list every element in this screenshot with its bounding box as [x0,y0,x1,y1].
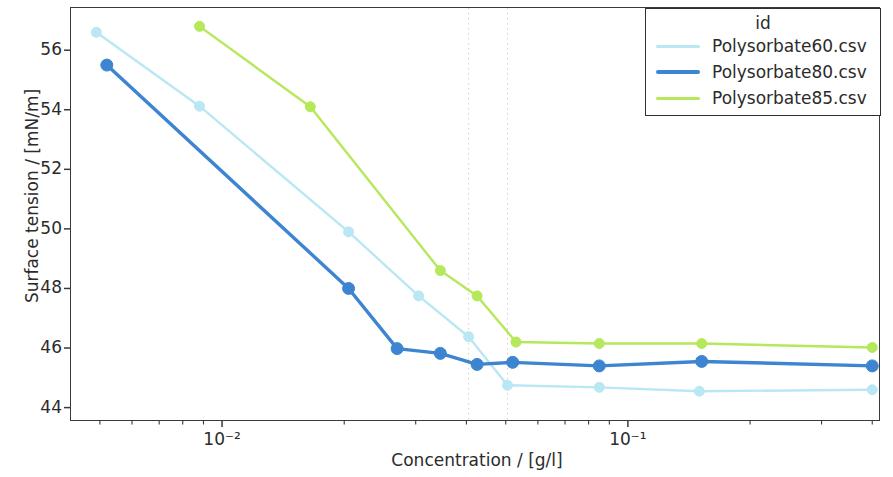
y-tick-label: 44 [16,399,62,416]
y-tick-label: 56 [16,41,62,58]
x-tick-label: 10⁻² [177,429,267,449]
y-tick-label: 48 [16,279,62,296]
y-axis-label: Surface tension / [mN/m] [22,46,42,346]
legend-entry-label: Polysorbate80.csv [712,62,867,82]
y-tick-label: 50 [16,220,62,237]
legend-entry-label: Polysorbate60.csv [712,36,867,56]
legend-title: id [646,13,880,33]
legend-entry-1[interactable]: Polysorbate80.csv [646,59,880,85]
legend-entry-label: Polysorbate85.csv [712,88,867,108]
y-tick-label: 52 [16,160,62,177]
legend-color-swatch [656,45,700,48]
legend-color-swatch [656,70,700,74]
legend-box: id Polysorbate60.csvPolysorbate80.csvPol… [645,8,881,116]
legend-entries: Polysorbate60.csvPolysorbate80.csvPolyso… [646,33,880,111]
legend-entry-0[interactable]: Polysorbate60.csv [646,33,880,59]
legend-color-swatch [656,97,700,100]
legend-entry-2[interactable]: Polysorbate85.csv [646,85,880,111]
x-axis-label: Concentration / [g/l] [297,450,657,470]
figure-canvas: Surface tension / [mN/m] Concentration /… [0,0,893,477]
y-tick-label: 54 [16,101,62,118]
x-tick-label: 10⁻¹ [583,429,673,449]
y-tick-label: 46 [16,339,62,356]
